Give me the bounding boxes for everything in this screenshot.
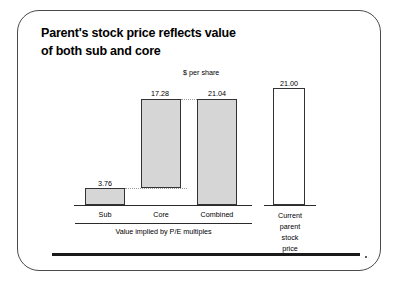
right-label-line-2: parent [262, 221, 318, 232]
category-label-combined: Combined [190, 210, 244, 219]
right-label-line-1: Current [262, 210, 318, 221]
bar-value-combined: 21.04 [192, 89, 242, 98]
group-caption-pe-multiples: Value implied by P/E multiples [75, 227, 252, 236]
bar-value-sub: 3.76 [85, 179, 125, 188]
slide-canvas: Parent's stock price reflects value of b… [0, 0, 403, 291]
bar-chart: $ per share 3.76 17.28 21.04 21.00 Sub C… [0, 0, 403, 291]
footer-dot [365, 256, 367, 258]
bar-sub [85, 188, 125, 205]
category-label-core: Core [141, 210, 181, 219]
right-label-line-3: stock [262, 232, 318, 243]
axis-baseline-right [264, 205, 316, 206]
category-label-sub: Sub [85, 210, 125, 219]
bar-combined [197, 99, 237, 205]
group-underline [75, 223, 252, 224]
bar-core [141, 99, 181, 188]
bar-value-core: 17.28 [135, 89, 185, 98]
category-label-current-parent-stock-price: Current parent stock price [262, 210, 318, 255]
bar-current-parent-stock-price [273, 88, 305, 205]
bar-value-current: 21.00 [264, 79, 314, 88]
leader-line-sub-to-core [125, 188, 187, 189]
axis-unit-label: $ per share [183, 68, 219, 77]
footer-rule [52, 253, 360, 256]
axis-baseline-left [74, 205, 252, 206]
